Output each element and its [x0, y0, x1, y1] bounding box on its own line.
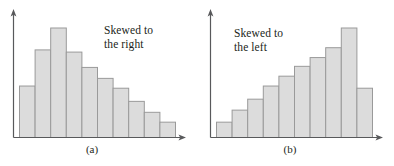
annotation-skewed-right: Skewed to the right	[104, 24, 153, 51]
histogram-bar	[98, 78, 114, 137]
panel-caption-a: (a)	[62, 143, 122, 155]
histogram-panel-b: Skewed to the left (b)	[197, 0, 394, 166]
histogram-chart-b	[197, 0, 394, 166]
histogram-bar	[326, 48, 342, 138]
histogram-panel-a: Skewed to the right (a)	[0, 0, 197, 166]
histogram-bar	[341, 28, 357, 138]
histogram-chart-a	[0, 0, 197, 166]
histogram-bar	[248, 99, 264, 137]
skewed-histograms-figure: Skewed to the right (a) Skewed to the le…	[0, 0, 394, 166]
histogram-bar	[51, 28, 67, 138]
histogram-bar	[160, 122, 176, 137]
histogram-bar	[217, 122, 233, 137]
histogram-bar	[232, 110, 248, 137]
histogram-bar	[66, 52, 82, 137]
histogram-bar	[357, 88, 373, 137]
histogram-bar	[20, 86, 36, 137]
histogram-bar	[129, 101, 145, 137]
histogram-bar	[279, 76, 295, 137]
histogram-bar	[263, 86, 279, 137]
histogram-bar	[310, 58, 326, 138]
annotation-line-2: the right	[104, 38, 153, 52]
annotation-line-1: Skewed to	[104, 24, 153, 38]
histogram-bar	[113, 88, 129, 137]
annotation-line-1: Skewed to	[234, 27, 283, 41]
annotation-skewed-left: Skewed to the left	[234, 27, 283, 54]
annotation-line-2: the left	[234, 41, 283, 55]
histogram-bar	[144, 112, 160, 137]
histogram-bar	[82, 67, 98, 137]
histogram-bar	[35, 50, 51, 138]
panel-caption-b: (b)	[260, 143, 320, 155]
histogram-bar	[295, 66, 311, 137]
